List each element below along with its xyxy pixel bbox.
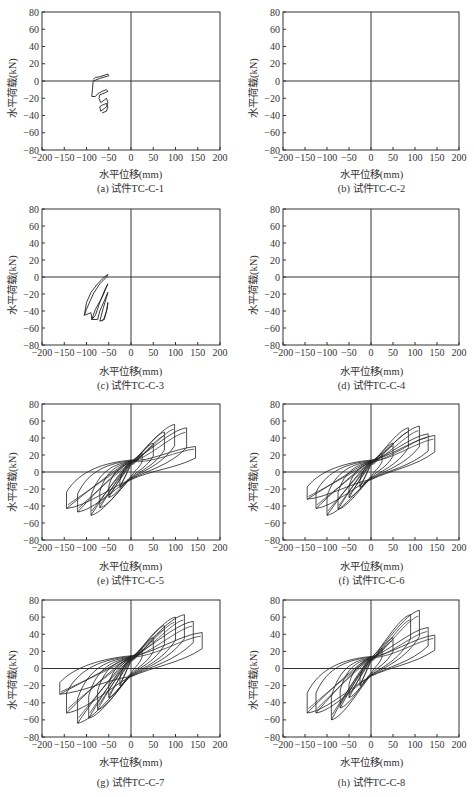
x-tick-label: −150 — [54, 347, 75, 358]
x-tick-label: −100 — [76, 542, 97, 553]
x-tick-label: −50 — [341, 739, 357, 750]
x-tick-label: 150 — [430, 152, 445, 163]
y-tick-label: 20 — [270, 450, 280, 461]
x-tick-label: −100 — [317, 739, 338, 750]
x-tick-label: 100 — [168, 347, 183, 358]
x-tick-label: 0 — [369, 347, 374, 358]
y-tick-label: 40 — [29, 433, 39, 444]
x-tick-label: 0 — [369, 542, 374, 553]
y-tick-label: 80 — [29, 7, 39, 18]
y-tick-label: 60 — [29, 24, 39, 35]
y-tick-label: −40 — [23, 697, 39, 708]
x-tick-label: 150 — [430, 347, 445, 358]
x-tick-label: 200 — [213, 542, 228, 553]
hysteresis-loop-repeat — [68, 626, 192, 709]
x-axis-label: 水平位移(mm) — [253, 363, 474, 378]
x-tick-label: −50 — [101, 347, 117, 358]
x-tick-label: 100 — [168, 542, 183, 553]
y-tick-label: 0 — [275, 76, 280, 87]
x-tick-label: −200 — [32, 152, 53, 163]
y-tick-label: 40 — [270, 433, 280, 444]
hysteresis-loop-repeat — [332, 616, 418, 715]
y-axis-label: 水平荷载(kN) — [4, 58, 19, 118]
y-tick-label: −40 — [264, 110, 280, 121]
y-tick-label: 60 — [270, 612, 280, 623]
x-tick-label: −100 — [317, 542, 338, 553]
x-tick-label: 100 — [168, 152, 183, 163]
x-tick-label: −50 — [341, 542, 357, 553]
y-axis-label: 水平荷载(kN) — [4, 452, 19, 512]
x-tick-label: −200 — [32, 739, 53, 750]
x-tick-label: 50 — [388, 347, 398, 358]
x-tick-label: 50 — [148, 542, 158, 553]
x-axis-label: 水平位移(mm) — [253, 754, 474, 769]
y-tick-label: −20 — [264, 484, 280, 495]
panel-caption: (e) 试件TC-C-5 — [12, 572, 249, 587]
y-tick-label: 60 — [29, 416, 39, 427]
y-tick-label: 40 — [29, 629, 39, 640]
x-tick-label: −150 — [295, 152, 316, 163]
x-tick-label: 0 — [369, 739, 374, 750]
x-tick-label: −150 — [295, 347, 316, 358]
hysteresis-loop — [78, 428, 187, 512]
panel-caption: (c) 试件TC-C-3 — [12, 377, 249, 392]
y-tick-label: −60 — [264, 518, 280, 529]
x-tick-label: −200 — [273, 347, 294, 358]
panel-caption: (b) 试件TC-C-2 — [253, 180, 474, 195]
hysteresis-loop — [67, 621, 194, 713]
x-tick-label: 50 — [148, 347, 158, 358]
x-axis-label: 水平位移(mm) — [12, 363, 249, 378]
panel-a: 806040200−20−40−60−80−200−150−100−500501… — [0, 0, 237, 197]
y-tick-label: 20 — [29, 450, 39, 461]
x-axis-label: 水平位移(mm) — [253, 558, 474, 573]
y-tick-label: −60 — [23, 714, 39, 725]
y-tick-label: −40 — [264, 306, 280, 317]
hysteresis-curves — [92, 74, 109, 113]
y-tick-label: 60 — [270, 24, 280, 35]
y-tick-label: −60 — [23, 323, 39, 334]
x-tick-label: −150 — [295, 542, 316, 553]
axes: 806040200−20−40−60−80−200−150−100−500501… — [23, 204, 227, 359]
panel-b: 806040200−20−40−60−80−200−150−100−500501… — [237, 0, 474, 197]
y-axis-label: 水平荷载(kN) — [245, 452, 260, 512]
x-tick-label: 150 — [190, 542, 205, 553]
y-tick-label: 40 — [270, 238, 280, 249]
hysteresis-loop — [331, 610, 419, 720]
x-tick-label: 0 — [129, 739, 134, 750]
y-tick-label: 0 — [275, 467, 280, 478]
hysteresis-curves — [84, 274, 108, 321]
x-tick-label: −100 — [76, 739, 97, 750]
y-tick-label: 0 — [275, 272, 280, 283]
y-tick-label: 60 — [29, 612, 39, 623]
panel-caption: (f) 试件TC-C-6 — [253, 572, 474, 587]
x-axis-label: 水平位移(mm) — [12, 166, 249, 181]
x-tick-label: 150 — [430, 739, 445, 750]
y-tick-label: −20 — [264, 93, 280, 104]
hysteresis-loop — [316, 434, 428, 509]
hysteresis-loop — [338, 428, 408, 510]
hysteresis-loop-repeat — [79, 432, 186, 508]
y-tick-label: −40 — [264, 697, 280, 708]
y-tick-label: 80 — [270, 399, 280, 410]
x-tick-label: 0 — [129, 152, 134, 163]
y-tick-label: 0 — [34, 272, 39, 283]
x-tick-label: −100 — [76, 152, 97, 163]
panel-e: 806040200−20−40−60−80−200−150−100−500501… — [0, 394, 237, 591]
hysteresis-loop-repeat — [328, 431, 419, 511]
y-tick-label: 20 — [29, 646, 39, 657]
x-tick-label: 0 — [369, 152, 374, 163]
x-tick-label: 150 — [190, 152, 205, 163]
panel-d: 806040200−20−40−60−80−200−150−100−500501… — [237, 197, 474, 394]
y-tick-label: 20 — [270, 646, 280, 657]
axes: 806040200−20−40−60−80−200−150−100−500501… — [264, 7, 466, 164]
y-tick-label: −20 — [23, 680, 39, 691]
y-axis-label: 水平荷载(kN) — [245, 58, 260, 118]
x-tick-label: −150 — [54, 152, 75, 163]
panel-c: 806040200−20−40−60−80−200−150−100−500501… — [0, 197, 237, 394]
x-axis-label: 水平位移(mm) — [12, 558, 249, 573]
y-tick-label: −60 — [264, 323, 280, 334]
panel-caption: (a) 试件TC-C-1 — [12, 180, 249, 195]
y-tick-label: −40 — [23, 306, 39, 317]
y-tick-label: −40 — [264, 501, 280, 512]
x-tick-label: −200 — [273, 542, 294, 553]
